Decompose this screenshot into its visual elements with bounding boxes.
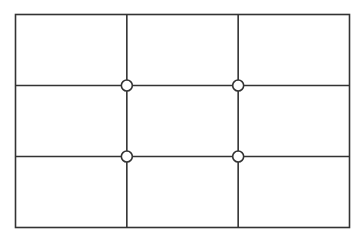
intersection-marker xyxy=(233,80,244,91)
intersection-marker xyxy=(121,80,132,91)
intersection-marker xyxy=(233,151,244,162)
outer-frame xyxy=(16,15,350,228)
intersection-marker xyxy=(121,151,132,162)
thirds-grid-diagram xyxy=(0,0,361,237)
